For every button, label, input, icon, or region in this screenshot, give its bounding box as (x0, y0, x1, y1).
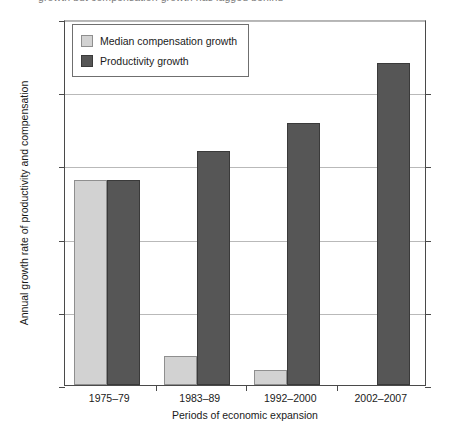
y-tick-mark-right (425, 94, 431, 95)
legend-item-median-compensation-growth: Median compensation growth (81, 32, 237, 49)
chart-legend: Median compensation growth Productivity … (72, 24, 249, 77)
bar[interactable] (164, 356, 197, 385)
bar-group (245, 21, 335, 385)
x-tick-label: 1992–2000 (245, 392, 336, 404)
cutoff-caption: growth but compensation growth has lagge… (38, 0, 418, 3)
bar[interactable] (74, 180, 107, 385)
legend-item-label: Productivity growth (100, 55, 189, 67)
x-axis-title: Periods of economic expansion (64, 409, 426, 421)
x-tick-mark (246, 385, 247, 391)
y-tick-mark-right (425, 167, 431, 168)
legend-item-productivity-growth: Productivity growth (81, 52, 237, 69)
x-tick-label: 1975–79 (64, 392, 155, 404)
x-tick-label: 2002–2007 (336, 392, 427, 404)
legend-item-label: Median compensation growth (100, 35, 237, 47)
bar-group (335, 21, 425, 385)
legend-swatch-icon (81, 55, 93, 67)
bar[interactable] (197, 151, 230, 385)
x-tick-label: 1983–89 (155, 392, 246, 404)
bar[interactable] (287, 123, 320, 385)
y-tick-mark-right (425, 387, 431, 388)
y-axis-title: Annual growth rate of productivity and c… (16, 20, 32, 386)
chart-figure: growth but compensation growth has lagge… (0, 0, 450, 432)
x-tick-mark (337, 385, 338, 391)
bar[interactable] (254, 370, 287, 385)
bar[interactable] (377, 63, 410, 385)
bar[interactable] (107, 180, 140, 385)
legend-swatch-icon (81, 35, 93, 47)
x-tick-mark (156, 385, 157, 391)
y-tick-mark-right (425, 314, 431, 315)
y-tick-mark (59, 387, 65, 388)
y-tick-mark-right (425, 241, 431, 242)
